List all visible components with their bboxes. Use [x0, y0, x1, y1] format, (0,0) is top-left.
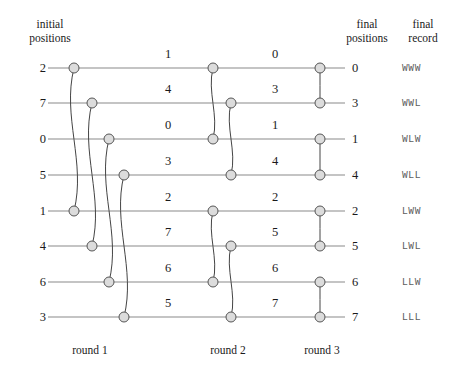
header-line-2: positions	[338, 32, 396, 46]
final-record-0: WWW	[402, 63, 421, 73]
round-label-3: round 3	[282, 344, 362, 356]
standing-after-round-1-row-1: 4	[158, 83, 178, 96]
initial-position-0: 2	[24, 62, 46, 75]
standing-after-round-1-row-4: 2	[158, 191, 178, 204]
standing-after-round-1-row-3: 3	[158, 155, 178, 168]
standing-after-round-1-row-2: 0	[158, 119, 178, 132]
column-header-initial-positions: initial positions	[8, 18, 92, 45]
final-record-3: WLL	[402, 170, 421, 180]
match-node-r3-row0[interactable]	[315, 63, 325, 73]
initial-position-2: 0	[24, 133, 46, 146]
final-position-5: 5	[352, 240, 374, 253]
header-line-1: final	[398, 18, 448, 32]
match-node-r3-row5[interactable]	[315, 241, 325, 251]
final-position-4: 2	[352, 205, 374, 218]
standing-after-round-2-row-7: 7	[265, 297, 285, 310]
match-node-r2-row6[interactable]	[208, 277, 218, 287]
match-node-r3-row7[interactable]	[315, 312, 325, 322]
final-position-6: 6	[352, 276, 374, 289]
match-node-r1-row2[interactable]	[104, 134, 114, 144]
round-label-2: round 2	[188, 344, 268, 356]
standing-after-round-2-row-0: 0	[265, 48, 285, 61]
match-node-r3-row4[interactable]	[315, 206, 325, 216]
match-node-r1-row1[interactable]	[87, 98, 97, 108]
match-node-r3-row1[interactable]	[315, 98, 325, 108]
column-header-final-positions: final positions	[338, 18, 396, 45]
match-node-r2-row0[interactable]	[208, 63, 218, 73]
header-line-2: positions	[8, 32, 92, 46]
final-record-2: WLW	[402, 134, 421, 144]
match-node-r2-row3[interactable]	[226, 170, 236, 180]
standing-after-round-2-row-2: 1	[265, 119, 285, 132]
match-node-r2-row5[interactable]	[226, 241, 236, 251]
final-record-7: LLL	[402, 312, 421, 322]
initial-position-5: 4	[24, 240, 46, 253]
final-record-5: LWL	[402, 241, 421, 251]
initial-position-4: 1	[24, 205, 46, 218]
final-position-3: 4	[352, 169, 374, 182]
standing-after-round-1-row-0: 1	[158, 48, 178, 61]
standing-after-round-2-row-3: 4	[265, 155, 285, 168]
match-node-r1-row3[interactable]	[119, 170, 129, 180]
match-node-r2-row1[interactable]	[226, 98, 236, 108]
final-position-7: 7	[352, 311, 374, 324]
final-position-0: 0	[352, 62, 374, 75]
initial-position-1: 7	[24, 97, 46, 110]
tournament-diagram: initial positions final positions final …	[0, 0, 451, 380]
initial-position-6: 6	[24, 276, 46, 289]
match-node-r2-row2[interactable]	[208, 134, 218, 144]
initial-position-3: 5	[24, 169, 46, 182]
standing-after-round-2-row-4: 2	[265, 191, 285, 204]
match-node-r1-row0[interactable]	[69, 63, 79, 73]
header-line-1: initial	[8, 18, 92, 32]
initial-position-7: 3	[24, 311, 46, 324]
diagram-wires-layer	[0, 0, 451, 380]
match-node-r1-row4[interactable]	[69, 206, 79, 216]
final-position-2: 1	[352, 133, 374, 146]
standing-after-round-2-row-1: 3	[265, 83, 285, 96]
final-record-6: LLW	[402, 277, 421, 287]
final-record-1: WWL	[402, 98, 421, 108]
match-node-r3-row2[interactable]	[315, 134, 325, 144]
match-node-r1-row5[interactable]	[87, 241, 97, 251]
standing-after-round-1-row-6: 6	[158, 262, 178, 275]
header-line-1: final	[338, 18, 396, 32]
standing-after-round-2-row-5: 5	[265, 226, 285, 239]
standing-after-round-1-row-5: 7	[158, 226, 178, 239]
match-node-r2-row7[interactable]	[226, 312, 236, 322]
column-header-final-record: final record	[398, 18, 448, 45]
standing-after-round-1-row-7: 5	[158, 297, 178, 310]
match-node-r1-row7[interactable]	[119, 312, 129, 322]
match-node-r3-row6[interactable]	[315, 277, 325, 287]
final-position-1: 3	[352, 97, 374, 110]
standing-after-round-2-row-6: 6	[265, 262, 285, 275]
match-node-r2-row4[interactable]	[208, 206, 218, 216]
final-record-4: LWW	[402, 206, 421, 216]
header-line-2: record	[398, 32, 448, 46]
round-label-1: round 1	[50, 344, 130, 356]
match-node-r1-row6[interactable]	[104, 277, 114, 287]
match-node-r3-row3[interactable]	[315, 170, 325, 180]
